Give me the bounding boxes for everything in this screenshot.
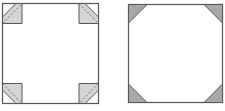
- right-outer-square: [129, 5, 223, 103]
- left-square-figure: [3, 4, 99, 104]
- diagram-canvas: [0, 0, 225, 111]
- right-square-figure: [129, 5, 223, 103]
